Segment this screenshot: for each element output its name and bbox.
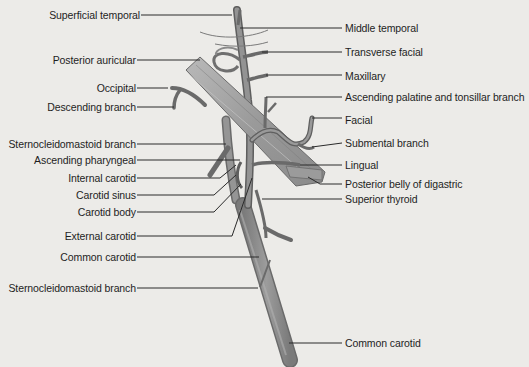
leader-lines-right bbox=[240, 28, 342, 343]
label-middle-temporal: Middle temporal bbox=[345, 22, 418, 34]
scm-branch-upper-vessel bbox=[210, 148, 228, 175]
label-occipital: Occipital bbox=[97, 82, 136, 94]
label-maxillary: Maxillary bbox=[345, 70, 386, 82]
label-ascending-pharyngeal: Ascending pharyngeal bbox=[34, 154, 136, 166]
label-transverse-facial: Transverse facial bbox=[345, 46, 423, 58]
label-sternocleidomastoid-branch-lower: Sternocleidomastoid branch bbox=[8, 282, 136, 294]
maxillary-vessel bbox=[247, 75, 268, 80]
label-lingual: Lingual bbox=[345, 159, 378, 171]
posterior-auricular-vessel bbox=[214, 47, 240, 70]
label-carotid-body: Carotid body bbox=[78, 206, 136, 218]
label-facial: Facial bbox=[345, 114, 372, 126]
label-carotid-sinus: Carotid sinus bbox=[76, 189, 136, 201]
ascending-palatine-vessel bbox=[265, 97, 266, 128]
label-external-carotid: External carotid bbox=[65, 230, 136, 242]
middle-temporal-vessel bbox=[238, 10, 240, 25]
label-common-carotid-left: Common carotid bbox=[60, 251, 136, 263]
label-posterior-auricular: Posterior auricular bbox=[53, 54, 136, 66]
superior-thyroid-vessel bbox=[256, 190, 291, 240]
submental-vessel bbox=[298, 144, 314, 148]
transverse-facial-vessel bbox=[243, 52, 268, 57]
label-descending-branch: Descending branch bbox=[47, 101, 136, 113]
label-submental-branch: Submental branch bbox=[345, 137, 429, 149]
label-sternocleidomastoid-branch-upper: Sternocleidomastoid branch bbox=[8, 138, 136, 150]
label-superior-thyroid: Superior thyroid bbox=[345, 193, 418, 205]
label-common-carotid-right: Common carotid bbox=[345, 337, 421, 349]
label-superficial-temporal: Superficial temporal bbox=[49, 9, 140, 21]
label-posterior-belly-digastric: Posterior belly of digastric bbox=[345, 178, 462, 190]
carotid-artery-diagram: Superficial temporal Posterior auricular… bbox=[0, 0, 529, 367]
label-internal-carotid: Internal carotid bbox=[68, 172, 136, 184]
ascending-pharyngeal-vessel bbox=[237, 162, 242, 188]
occipital-vessel bbox=[172, 88, 205, 108]
label-ascending-palatine-tonsillar: Ascending palatine and tonsillar branch bbox=[345, 91, 524, 103]
